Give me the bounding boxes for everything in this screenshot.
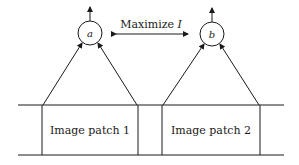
- arrow-patch2-left-to-b: [163, 44, 204, 105]
- unit-b: b: [200, 8, 224, 46]
- diagram-canvas: Image patch 1 Image patch 2 a b Maximize…: [0, 0, 299, 165]
- arrow-patch2-right-to-b: [220, 44, 259, 105]
- unit-a-label: a: [87, 28, 93, 39]
- arrow-patch1-right-to-a: [98, 43, 137, 105]
- patch-2-label: Image patch 2: [171, 124, 251, 137]
- image-patch-1: Image patch 1: [42, 105, 138, 155]
- unit-a: a: [78, 7, 102, 45]
- objective-symbol: I: [176, 18, 182, 31]
- image-patch-2: Image patch 2: [162, 105, 260, 155]
- objective-label: Maximize I: [120, 18, 182, 31]
- unit-b-label: b: [209, 29, 215, 40]
- diagram-svg: Image patch 1 Image patch 2 a b Maximize…: [0, 0, 299, 165]
- patch-1-label: Image patch 1: [50, 124, 130, 137]
- arrow-patch1-left-to-a: [43, 43, 82, 105]
